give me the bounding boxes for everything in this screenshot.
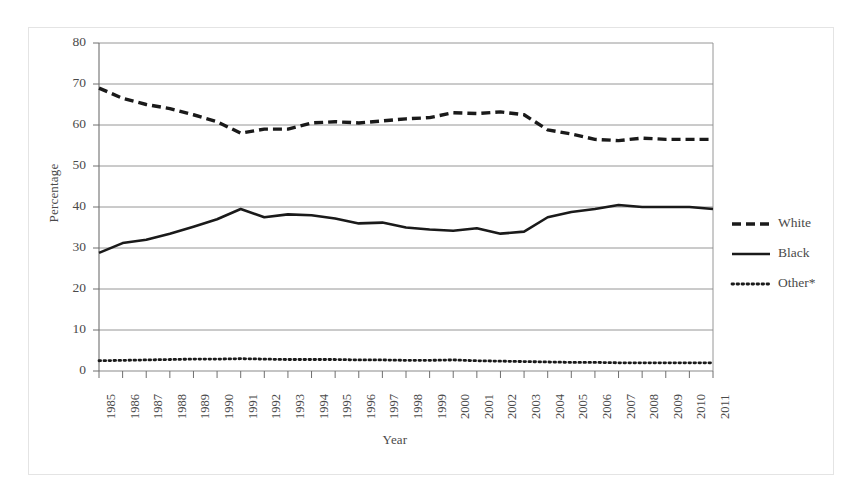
x-tick-label: 1988: [175, 394, 190, 419]
x-tick-label: 2001: [482, 394, 497, 419]
y-tick-label: 70: [52, 75, 86, 91]
x-tick-label: 1987: [151, 394, 166, 419]
x-tick-label: 1998: [411, 394, 426, 419]
legend-label-other-: Other*: [778, 275, 816, 291]
series-line-white: [99, 88, 713, 140]
x-tick-label: 2002: [505, 394, 520, 419]
x-tick-label: 2003: [529, 394, 544, 419]
y-tick-label: 60: [52, 116, 86, 132]
x-axis-title: Year: [335, 432, 455, 448]
x-tick-label: 1991: [246, 394, 261, 419]
legend-swatches-group: [732, 224, 770, 284]
x-tick-label: 2009: [671, 394, 686, 419]
legend-label-white: White: [778, 215, 811, 231]
x-tick-label: 2005: [576, 394, 591, 419]
y-tick-label: 10: [52, 321, 86, 337]
x-tick-label: 1994: [317, 394, 332, 419]
x-tick-label: 2000: [458, 394, 473, 419]
x-tick-label: 2011: [718, 394, 733, 419]
y-tick-label: 80: [52, 34, 86, 50]
y-axis-title: Percentage: [46, 133, 62, 253]
gridlines-group: [99, 43, 713, 371]
y-tick-label: 20: [52, 280, 86, 296]
x-tick-label: 2008: [647, 394, 662, 419]
data-series-group: [99, 88, 713, 363]
series-line-black: [99, 205, 713, 253]
x-tick-label: 1985: [104, 394, 119, 419]
x-tick-label: 2006: [600, 394, 615, 419]
x-tick-label: 1996: [364, 394, 379, 419]
x-tick-label: 1992: [269, 394, 284, 419]
x-tick-label: 1997: [387, 394, 402, 419]
x-tick-label: 1990: [222, 394, 237, 419]
y-tick-label: 30: [52, 239, 86, 255]
chart-figure: Percentage Year 80706050403020100 198519…: [0, 0, 863, 494]
y-tick-label: 40: [52, 198, 86, 214]
x-tick-label: 2004: [553, 394, 568, 419]
x-tick-label: 2007: [624, 394, 639, 419]
x-tick-marks-group: [99, 371, 713, 378]
line-chart-canvas: [0, 0, 863, 494]
series-line-other-: [99, 359, 713, 363]
y-tick-label: 50: [52, 157, 86, 173]
y-tick-label: 0: [52, 362, 86, 378]
x-tick-label: 2010: [694, 394, 709, 419]
x-tick-label: 1989: [198, 394, 213, 419]
y-tick-marks-group: [93, 43, 99, 371]
x-tick-label: 1995: [340, 394, 355, 419]
legend-label-black: Black: [778, 245, 810, 261]
x-tick-label: 1993: [293, 394, 308, 419]
x-tick-label: 1999: [435, 394, 450, 419]
x-tick-label: 1986: [128, 394, 143, 419]
